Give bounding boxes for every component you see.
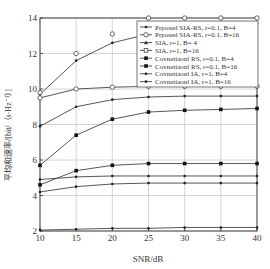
dot-marker-icon <box>256 182 259 185</box>
dot-marker-icon <box>111 183 114 186</box>
dot-marker-icon <box>39 178 42 181</box>
square-marker-icon <box>183 109 187 113</box>
square-marker-icon <box>74 169 78 173</box>
x-tick-label: 40 <box>253 233 263 243</box>
circle-marker-icon <box>146 16 150 20</box>
circle-marker-icon <box>219 16 223 20</box>
x-tick-label: 30 <box>180 233 190 243</box>
dot-marker-icon <box>145 73 148 76</box>
square-marker-icon <box>255 107 259 111</box>
legend-label: Covnetiaonl IA, r=1, B=4 <box>155 70 228 78</box>
square-marker-icon <box>147 110 151 114</box>
legend-label: Prposed SIA-RS, r=0.1, B=4 <box>155 24 236 32</box>
dot-marker-icon <box>75 59 78 62</box>
dot-marker-icon <box>145 26 148 29</box>
legend-item: Covnetiaonl RS, r=0.1, B=16 <box>140 63 238 71</box>
y-tick-label: 8 <box>33 120 38 130</box>
dot-marker-icon <box>75 185 78 188</box>
dot-marker-icon <box>256 95 259 98</box>
y-axis-label: 平均和速率/[bit/（s·Hz⁻¹）] <box>3 89 13 181</box>
y-tick-label: 4 <box>33 191 38 201</box>
dot-marker-icon <box>183 182 186 185</box>
x-tick-label: 20 <box>108 233 118 243</box>
square-marker-icon <box>183 162 187 166</box>
legend-label: SIA, r=1, B=16 <box>155 47 199 55</box>
x-tick-label: 15 <box>72 233 82 243</box>
dot-marker-icon <box>111 98 114 101</box>
dot-marker-icon <box>111 227 114 230</box>
circle-marker-icon <box>38 90 42 94</box>
legend-label: Covnetiaonl RS, r=0.1, B=16 <box>155 63 238 71</box>
legend-label: Prposed SIA-RS, r=0.1, B=16 <box>155 31 240 39</box>
square-marker-icon <box>144 56 148 60</box>
square-marker-icon <box>38 164 42 168</box>
square-marker-icon <box>219 108 223 112</box>
dot-marker-icon <box>147 96 150 99</box>
dot-marker-icon <box>220 175 223 178</box>
dot-marker-icon <box>39 191 42 194</box>
dot-marker-icon <box>256 226 259 229</box>
square-marker-icon <box>74 133 78 137</box>
dot-marker-icon <box>147 175 150 178</box>
dot-marker-icon <box>183 95 186 98</box>
square-marker-icon <box>147 162 151 166</box>
y-tick-label: 12 <box>28 49 37 59</box>
square-marker-icon <box>255 162 259 166</box>
circle-marker-icon <box>74 87 78 91</box>
dot-marker-icon <box>220 182 223 185</box>
circle-marker-icon <box>144 33 148 37</box>
dot-marker-icon <box>256 175 259 178</box>
dot-marker-icon <box>75 176 78 179</box>
dot-marker-icon <box>220 226 223 229</box>
square-marker-icon <box>111 117 115 121</box>
dot-marker-icon <box>75 105 78 108</box>
circle-marker-icon <box>255 16 259 20</box>
dot-marker-icon <box>183 175 186 178</box>
square-marker-icon <box>111 164 115 168</box>
circle-marker-icon <box>182 16 186 20</box>
open-square-marker-icon <box>144 49 148 53</box>
square-marker-icon <box>219 162 223 166</box>
y-tick-label: 14 <box>28 13 38 23</box>
y-tick-label: 10 <box>28 84 38 94</box>
legend: Prposed SIA-RS, r=0.1, B=4Prposed SIA-RS… <box>137 21 258 87</box>
dot-marker-icon <box>183 226 186 229</box>
dot-marker-icon <box>75 228 78 231</box>
legend-label: SIA, r=1, B= 4 <box>155 39 197 47</box>
legend-item: Prposed SIA-RS, r=0.1, B=4 <box>140 24 236 32</box>
x-axis-label: SNR/dB <box>133 254 164 264</box>
y-tick-label: 2 <box>33 226 38 236</box>
dot-marker-icon <box>39 229 42 232</box>
x-tick-label: 35 <box>216 233 226 243</box>
square-marker-icon <box>144 64 148 68</box>
sum-rate-chart: 101520253035402468101214 Prposed SIA-RS,… <box>0 0 270 269</box>
circle-marker-icon <box>74 51 78 55</box>
dot-marker-icon <box>220 95 223 98</box>
legend-item: Prposed SIA-RS, r=0.1, B=16 <box>140 31 240 39</box>
legend-item: Covnetiaonl RS, r=0.1, B=4 <box>140 55 234 63</box>
circle-marker-icon <box>110 32 114 36</box>
dot-marker-icon <box>111 175 114 178</box>
circle-marker-icon <box>110 85 114 89</box>
square-marker-icon <box>38 183 42 187</box>
y-tick-label: 6 <box>33 155 38 165</box>
dot-marker-icon <box>39 125 42 128</box>
chart-canvas: 101520253035402468101214 Prposed SIA-RS,… <box>0 0 270 269</box>
dot-marker-icon <box>145 80 148 83</box>
dot-marker-icon <box>147 182 150 185</box>
circle-marker-icon <box>38 96 42 100</box>
legend-label: Covnetiaonl IA, r=1, B=16 <box>155 78 231 86</box>
dot-marker-icon <box>111 42 114 45</box>
legend-label: Covnetiaonl RS, r=0.1, B=4 <box>155 55 234 63</box>
dot-marker-icon <box>147 227 150 230</box>
x-tick-label: 25 <box>144 233 154 243</box>
